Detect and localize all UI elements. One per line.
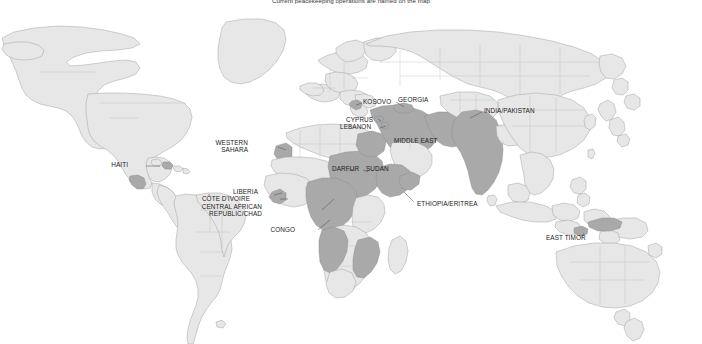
region-georgia [394, 103, 414, 113]
map-label-cote-divoire: CÔTE D'IVOIRE [188, 195, 250, 202]
region-east-asia [498, 93, 630, 159]
region-car-chad-congo [306, 178, 358, 231]
map-label-india-pakistan: INDIA/PAKISTAN [484, 107, 535, 114]
map-canvas: Current peacekeeping operations are name… [0, 0, 702, 344]
map-label-sudan: SUDAN [366, 165, 389, 172]
map-label-western-sahara-line2: SAHARA [200, 146, 248, 153]
region-cyprus [374, 116, 384, 122]
map-label-darfur: DARFUR [332, 165, 359, 172]
map-label-east-timor: EAST TIMOR [546, 234, 586, 241]
region-india-pakistan [452, 110, 503, 195]
map-label-georgia: GEORGIA [398, 96, 428, 103]
region-haiti [162, 162, 173, 169]
map-label-car-chad-line2: REPUBLIC/CHAD [186, 210, 262, 217]
map-label-ethiopia-eritrea: ETHIOPIA/ERITREA [417, 200, 478, 207]
map-label-middle-east: MIDDLE EAST [394, 137, 438, 144]
map-label-congo: CONGO [255, 226, 295, 233]
region-mozambique-zimbabwe [353, 237, 380, 278]
region-southeast-asia [496, 152, 648, 245]
region-egypt [356, 131, 386, 157]
leader-ethiopia [404, 192, 414, 202]
map-label-kosovo: KOSOVO [363, 98, 391, 105]
map-label-haiti: HAITI [90, 161, 128, 168]
region-oceania [556, 243, 662, 341]
map-label-lebanon: LEBANON [340, 123, 371, 130]
